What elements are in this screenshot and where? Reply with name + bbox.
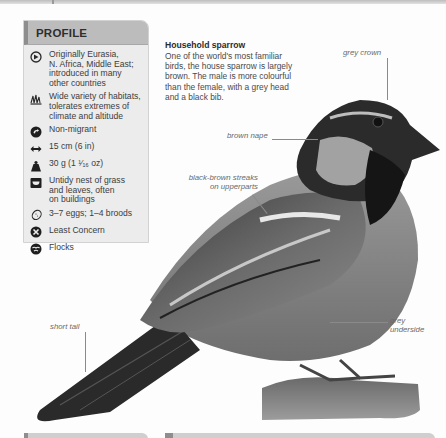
profile-item-habitat: Wide variety of habitats, tolerates extr… (29, 92, 144, 121)
leader-grey-crown (387, 58, 388, 100)
conservation-status-icon (29, 226, 42, 239)
egg-icon (29, 209, 42, 222)
weight-icon (29, 159, 42, 172)
profile-item-range: Originally Eurasia, N. Africa, Middle Ea… (29, 50, 144, 88)
profile-item-nest: Untidy nest of grass and leaves, often o… (29, 176, 144, 205)
profile-item-eggs: 3–7 eggs; 1–4 broods (29, 209, 144, 222)
nest-icon (29, 176, 42, 189)
profile-eggs-text: 3–7 eggs; 1–4 broods (49, 209, 132, 219)
profile-panel: PROFILE Originally Eurasia, N. Africa, M… (23, 20, 149, 243)
profile-item-status: Least Concern (29, 226, 144, 239)
profile-status-text: Least Concern (49, 226, 105, 236)
globe-range-icon (29, 50, 42, 63)
species-description: One of the world's most familiar birds, … (165, 51, 300, 102)
label-grey-crown: grey crown (343, 48, 381, 57)
profile-range-text: Originally Eurasia, N. Africa, Middle Ea… (49, 50, 134, 88)
profile-migration-text: Non-migrant (49, 125, 96, 135)
label-short-tail: short tail (50, 322, 79, 331)
label-streaks: black-brown streaks on upperparts (166, 173, 258, 192)
next-panel-right-tab (165, 433, 435, 438)
habitat-grass-icon (29, 92, 42, 105)
label-grey-underside: grey underside (390, 316, 424, 335)
profile-header: PROFILE (24, 21, 148, 45)
profile-item-length: 15 cm (6 in) (29, 142, 144, 155)
profile-length-text: 15 cm (6 in) (49, 142, 94, 152)
next-panel-left-tab (24, 433, 148, 438)
profile-title: PROFILE (36, 27, 87, 39)
profile-item-social: Flocks (29, 243, 144, 256)
species-title: Household sparrow (165, 40, 300, 51)
profile-weight-text: 30 g (1 ¹⁄₁₆ oz) (49, 159, 103, 169)
species-intro: Household sparrow One of the world's mos… (165, 40, 300, 102)
label-brown-nape: brown nape (227, 131, 268, 140)
profile-list: Originally Eurasia, N. Africa, Middle Ea… (24, 45, 148, 256)
profile-habitat-text: Wide variety of habitats, tolerates extr… (49, 92, 141, 121)
profile-item-weight: 30 g (1 ¹⁄₁₆ oz) (29, 159, 144, 172)
profile-item-migration: Non-migrant (29, 125, 144, 138)
length-arrows-icon (29, 142, 42, 155)
leader-short-tail (85, 332, 86, 372)
migration-icon (29, 125, 42, 138)
profile-social-text: Flocks (49, 243, 74, 253)
leader-brown-nape (272, 139, 318, 140)
profile-nest-text: Untidy nest of grass and leaves, often o… (49, 176, 125, 205)
leader-grey-underside (330, 322, 388, 323)
social-flock-icon (29, 243, 42, 256)
